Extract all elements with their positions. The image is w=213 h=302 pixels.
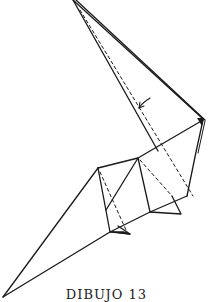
- origami-diagram: DIBUJO 13: [0, 0, 213, 302]
- curved-arrow-icon: [139, 98, 150, 108]
- body-top-edge: [98, 120, 203, 168]
- neck-inner-edge: [73, 0, 158, 151]
- neck-fold-line: [80, 10, 193, 196]
- rear-leg-vertical: [138, 158, 150, 212]
- origami-figure: [0, 0, 213, 302]
- triangle-arrow-icon: [197, 118, 204, 126]
- figure-caption: DIBUJO 13: [0, 287, 213, 302]
- tail-edge: [187, 120, 203, 196]
- front-leg-vertical: [98, 168, 110, 232]
- neck-outer-edge: [73, 0, 205, 120]
- head-upper-edge: [3, 168, 98, 297]
- front-leg-diagonal: [106, 158, 138, 210]
- body-bottom-edge: [3, 196, 187, 297]
